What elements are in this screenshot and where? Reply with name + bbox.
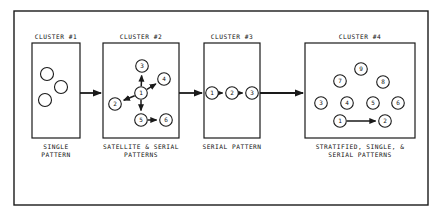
cluster-2-node-label-6: 6	[164, 116, 168, 123]
diagram-geometry: 123456123978345612	[14, 11, 428, 205]
cluster-1-node-1	[41, 68, 54, 81]
cluster-4-box	[305, 43, 415, 138]
cluster-4-node-label-5: 5	[371, 99, 375, 106]
cluster-4-node-label-2: 2	[383, 117, 387, 124]
cluster-1-node-3	[39, 94, 52, 107]
cluster-4-node-label-9: 9	[359, 65, 363, 72]
cluster-3-node-label-1: 1	[210, 89, 214, 96]
cluster-2-node-label-4: 4	[162, 75, 166, 82]
cluster-4-node-label-1: 1	[338, 117, 342, 124]
cluster-4-node-label-4: 4	[345, 99, 349, 106]
cluster-2-node-label-5: 5	[139, 116, 143, 123]
cluster-1-node-2	[55, 81, 68, 94]
cluster-3-node-label-2: 2	[230, 89, 234, 96]
cluster-4-title: CLUSTER #4	[300, 33, 420, 40]
cluster-4-node-label-6: 6	[396, 99, 400, 106]
cluster-4-node-label-3: 3	[319, 99, 323, 106]
diagram-canvas: 123456123978345612 CLUSTER #1SINGLEPATTE…	[0, 0, 444, 217]
cluster-3-title: CLUSTER #3	[172, 33, 292, 40]
cluster-4-node-label-7: 7	[338, 77, 342, 84]
cluster-2-node-label-1: 1	[139, 89, 143, 96]
cluster-2-node-label-2: 2	[113, 100, 117, 107]
cluster-3-node-label-3: 3	[250, 89, 254, 96]
cluster-2-node-label-3: 3	[140, 62, 144, 69]
cluster-4-node-label-8: 8	[381, 78, 385, 85]
cluster-4-caption: STRATIFIED, SINGLE, &SERIAL PATTERNS	[290, 143, 430, 159]
cluster-3-caption: SERIAL PATTERN	[162, 143, 302, 151]
